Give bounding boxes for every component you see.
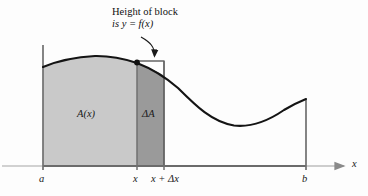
axis-tick-label-x: x bbox=[133, 173, 138, 185]
axis-tick-label-b: b bbox=[302, 173, 307, 185]
axis-tick-label-x-plus-delta-x: x + Δx bbox=[151, 173, 179, 185]
x-axis-title: x bbox=[352, 158, 357, 170]
callout-arrow bbox=[141, 37, 155, 56]
area-function-label: A(x) bbox=[77, 108, 95, 120]
figure-canvas bbox=[0, 0, 368, 196]
callout-line-1: Height of block bbox=[112, 6, 178, 18]
point-on-curve-marker bbox=[134, 60, 140, 66]
callout-caption: Height of block is y = f(x) bbox=[112, 6, 178, 31]
axis-tick-label-a: a bbox=[39, 173, 44, 185]
delta-area-label: ΔA bbox=[142, 108, 155, 120]
area-function-figure: Height of block is y = f(x) A(x) ΔA a x … bbox=[0, 0, 368, 196]
callout-line-2: is y = f(x) bbox=[112, 18, 178, 30]
